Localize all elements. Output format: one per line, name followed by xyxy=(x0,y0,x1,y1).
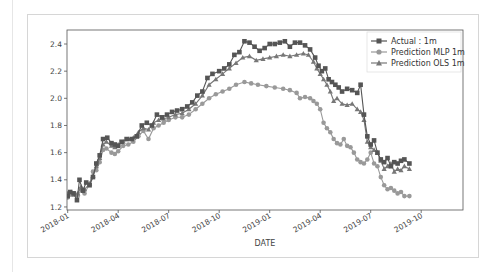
x-axis: 2018-012018-042018-072018-102019-012019-… xyxy=(39,210,424,234)
series-1 xyxy=(65,80,411,200)
circle-marker-icon xyxy=(376,49,381,54)
legend: Actual : 1m Prediction MLP 1m Prediction… xyxy=(367,32,465,72)
svg-text:Prediction MLP 1m: Prediction MLP 1m xyxy=(391,48,465,57)
svg-text:Prediction OLS 1m: Prediction OLS 1m xyxy=(391,59,465,68)
x-tick-label: 2019-04 xyxy=(292,211,324,235)
y-tick-label: 1.6 xyxy=(50,148,62,157)
line-chart: 1.21.41.61.82.02.22.4 2018-012018-042018… xyxy=(0,0,502,272)
x-tick-label: 2019-10 xyxy=(393,211,425,235)
y-tick-label: 2.2 xyxy=(50,67,62,76)
y-axis: 1.21.41.61.82.02.22.4 xyxy=(50,40,67,212)
y-tick-label: 1.8 xyxy=(50,121,62,130)
x-tick-label: 2018-04 xyxy=(90,211,122,235)
x-axis-label: DATE xyxy=(255,239,276,248)
y-tick-label: 2.0 xyxy=(50,94,62,103)
plot-area xyxy=(65,39,412,202)
y-tick-label: 1.4 xyxy=(50,175,62,184)
x-tick-label: 2018-10 xyxy=(191,211,223,235)
series-2 xyxy=(65,51,412,197)
x-tick-label: 2019-01 xyxy=(241,211,273,235)
square-marker-icon xyxy=(377,39,382,44)
series-0 xyxy=(65,39,411,202)
y-tick-label: 1.2 xyxy=(50,203,62,212)
y-tick-label: 2.4 xyxy=(50,40,62,49)
svg-text:Actual : 1m: Actual : 1m xyxy=(391,37,437,46)
x-tick-label: 2018-07 xyxy=(140,211,172,235)
x-tick-label: 2019-07 xyxy=(342,211,374,235)
x-tick-label: 2018-01 xyxy=(39,211,71,235)
